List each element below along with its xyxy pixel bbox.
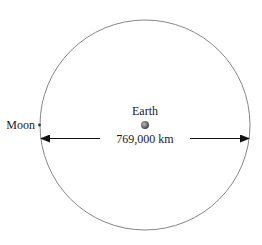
- earth-label: Earth: [132, 104, 158, 118]
- distance-label: 769,000 km: [116, 132, 174, 146]
- earth-icon: [141, 121, 149, 129]
- moon-label: Moon: [6, 118, 35, 132]
- moon-icon: [38, 124, 41, 127]
- orbit-diagram: Earth Moon 769,000 km: [0, 0, 262, 245]
